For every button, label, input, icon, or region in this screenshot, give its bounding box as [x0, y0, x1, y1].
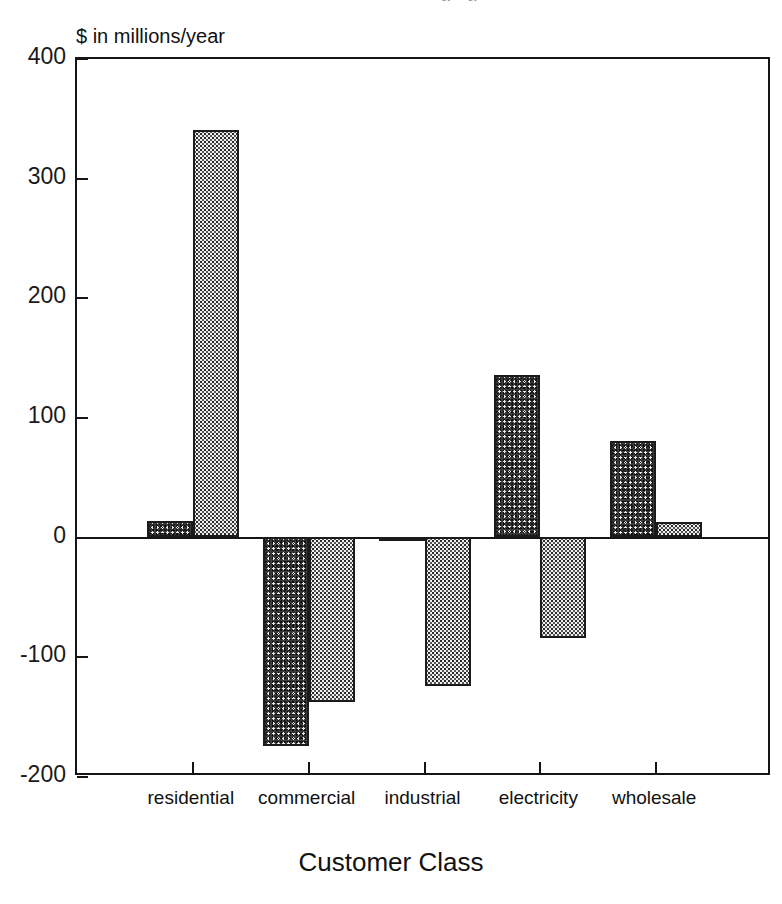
x-axis-tick-label: residential — [133, 787, 249, 809]
x-axis-tick — [308, 762, 310, 773]
bar-commercial-series-1-dark — [263, 537, 309, 746]
x-axis-tick — [655, 762, 657, 773]
y-axis-tick-label: 100 — [0, 404, 66, 427]
bar-wholesale-series-1-dark — [610, 441, 656, 537]
y-axis-tick-label: 300 — [0, 165, 66, 188]
y-axis-tick — [77, 58, 88, 60]
y-axis-tick-label: 200 — [0, 284, 66, 307]
y-axis-tick — [77, 178, 88, 180]
x-axis-tick — [424, 762, 426, 773]
bar-commercial-series-2-light — [309, 537, 355, 702]
bar-electricity-series-1-dark — [494, 375, 540, 537]
y-axis-tick-label: 400 — [0, 45, 66, 68]
y-axis-tick-label: -100 — [0, 643, 66, 666]
x-axis-tick — [192, 762, 194, 773]
scan-top-cutoff-text: …gy …gy … — [0, 0, 782, 12]
bar-industrial-series-1-dark — [379, 537, 425, 542]
x-axis-tick-label: wholesale — [596, 787, 712, 809]
bar-residential-series-2-light — [193, 130, 239, 537]
x-axis-tick — [539, 762, 541, 773]
x-axis-tick-label: industrial — [365, 787, 481, 809]
y-axis-tick — [77, 537, 88, 539]
y-axis-tick — [77, 656, 88, 658]
y-axis-tick-labels: 4003002001000-100-200 — [0, 57, 66, 775]
x-axis-tick-label: electricity — [480, 787, 596, 809]
plot-area — [75, 57, 770, 775]
x-axis-tick-labels: residentialcommercialindustrialelectrici… — [75, 787, 770, 817]
x-axis-tick-label: commercial — [249, 787, 365, 809]
bar-wholesale-series-2-light — [656, 522, 702, 536]
y-axis-caption: $ in millions/year — [76, 26, 225, 46]
y-axis-tick — [77, 417, 88, 419]
bar-electricity-series-2-light — [540, 537, 586, 639]
y-axis-tick — [77, 776, 88, 778]
bar-industrial-series-2-light — [425, 537, 471, 687]
bar-residential-series-1-dark — [147, 521, 193, 537]
y-axis-tick — [77, 297, 88, 299]
y-axis-tick-label: 0 — [0, 524, 66, 547]
x-axis-title: Customer Class — [0, 848, 782, 876]
cutoff-text: …gy …gy … — [430, 0, 494, 1]
y-axis-tick-label: -200 — [0, 763, 66, 786]
